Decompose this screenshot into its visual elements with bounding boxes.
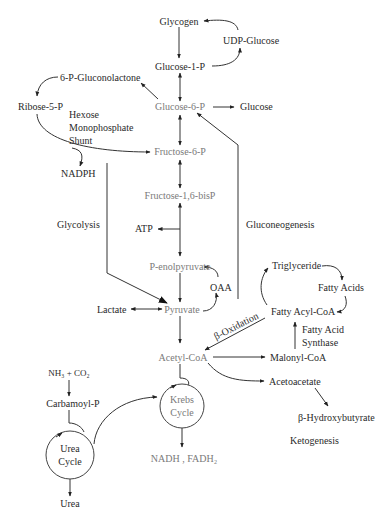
label-krebs-cycle: Cycle xyxy=(170,407,194,418)
node-lactate: Lactate xyxy=(97,304,127,315)
label-beta-oxidation: β-Oxidation xyxy=(212,310,260,342)
node-nadh-fadh2: NADH , FADH₂ xyxy=(151,453,217,464)
node-atp: ATP xyxy=(135,223,153,234)
label-fas-synthase: Synthase xyxy=(302,337,339,348)
node-carbamoyl-p: Carbamoyl-P xyxy=(46,398,100,409)
node-oaa: OAA xyxy=(210,282,232,293)
node-triglyceride: Triglyceride xyxy=(272,260,322,271)
edge-g6p-gluconolactone xyxy=(141,83,158,99)
edge-triglyceride-fattyacids xyxy=(322,266,342,280)
node-glucose-1p: Glucose-1-P xyxy=(155,61,205,72)
edge-fattyacyl-triglyceride xyxy=(261,268,268,305)
node-beta-hydroxybutyrate: β-Hydroxybutyrate xyxy=(298,412,375,423)
label-ketogenesis: Ketogenesis xyxy=(290,435,339,446)
edge-hms-nadph xyxy=(72,148,82,166)
edge-urea-krebs xyxy=(94,397,157,444)
label-gluconeogenesis: Gluconeogenesis xyxy=(246,219,314,230)
label-urea-cycle: Cycle xyxy=(58,456,82,467)
label-hms-shunt: Shunt xyxy=(69,135,93,146)
label-fas-fatty-acid: Fatty Acid xyxy=(302,324,344,335)
metabolic-pathway-diagram: Glycogen UDP-Glucose Glucose-1-P 6-P-Glu… xyxy=(0,0,390,519)
edge-carbamoyl-urea xyxy=(69,410,84,432)
node-p-enolpyruvate: P-enolpyruvate xyxy=(149,261,211,272)
krebs-cycle-circle xyxy=(160,384,204,428)
edge-acetylcoa-krebs xyxy=(180,364,189,386)
node-fatty-acids: Fatty Acids xyxy=(318,282,364,293)
edge-udpglucose-glycogen xyxy=(204,20,238,30)
edge-gluconolactone-ribose5p xyxy=(37,77,58,96)
node-udp-glucose: UDP-Glucose xyxy=(223,35,280,46)
edge-acetoacetate-bhb xyxy=(315,388,328,406)
node-glucose: Glucose xyxy=(240,101,273,112)
node-ribose-5p: Ribose-5-P xyxy=(18,101,63,112)
edge-acetylcoa-acetoacetate xyxy=(208,363,264,381)
edge-fattyacids-fattyacyl xyxy=(337,296,346,312)
edge-g1p-udpglucose xyxy=(212,48,240,66)
node-fructose-16-bisp: Fructose-1,6-bisP xyxy=(145,190,216,201)
label-hms-monophosphate: Monophosphate xyxy=(69,122,134,133)
node-urea: Urea xyxy=(60,498,80,509)
label-urea: Urea xyxy=(60,443,80,454)
node-fatty-acyl-coa: Fatty Acyl-CoA xyxy=(271,306,336,317)
node-glucose-6p: Glucose-6-P xyxy=(155,101,205,112)
node-malonyl-coa: Malonyl-CoA xyxy=(270,352,327,363)
node-glycogen: Glycogen xyxy=(160,16,199,27)
node-nh3-co2: NH₃ + CO₂ xyxy=(48,368,89,378)
label-hms-hexose: Hexose xyxy=(69,109,100,120)
node-fructose-6p: Fructose-6-P xyxy=(154,146,206,157)
label-krebs: Krebs xyxy=(170,394,194,405)
node-acetyl-coa: Acetyl-CoA xyxy=(159,352,209,363)
node-nadph: NADPH xyxy=(61,168,95,179)
node-acetoacetate: Acetoacetate xyxy=(269,376,321,387)
urea-cycle-circle xyxy=(46,431,94,479)
label-glycolysis: Glycolysis xyxy=(57,219,100,230)
node-pyruvate: Pyruvate xyxy=(164,304,200,315)
node-6p-gluconolactone: 6-P-Gluconolactone xyxy=(60,72,141,83)
edge-pyruvate-oaa xyxy=(203,293,216,311)
